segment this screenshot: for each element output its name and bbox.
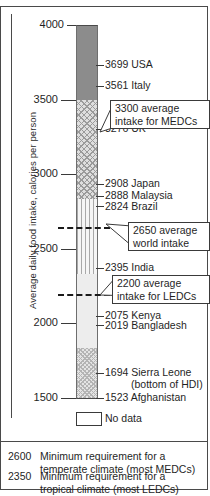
axis-tick-label-4000: 4000: [20, 18, 64, 30]
table-divider: [1, 441, 207, 442]
callout-world: 2650 average world intake: [128, 222, 210, 251]
callout-medc: 3300 average intake for MEDCs: [110, 100, 210, 129]
leader-tick-afghanistan: [96, 398, 104, 399]
bar-band-dotted: [76, 348, 98, 399]
bar-band-vertical-stripe: [76, 199, 98, 274]
leader-tick-india: [96, 268, 104, 269]
point-label-afghanistan: 1523 Afghanistan: [105, 391, 186, 403]
bar-band-plain: [76, 274, 98, 348]
leader-tick-bangladesh: [96, 325, 104, 326]
requirement-text-2600-line1: Minimum requirement for a: [40, 450, 165, 463]
requirement-text-2350-line1: Minimum requirement for a: [40, 470, 165, 483]
point-label-japan: 2908 Japan: [105, 177, 160, 189]
axis-tick-label-1500: 1500: [14, 391, 58, 403]
dashed-line-2200: [58, 294, 110, 296]
leader-tick-sierra-leone: [96, 373, 104, 374]
leader-tick-italy: [96, 86, 104, 87]
leader-tick-uk: [96, 129, 104, 130]
callout-ledc: 2200 average intake for LEDCs: [112, 275, 210, 304]
requirement-value-2350: 2350: [8, 470, 31, 482]
leader-tick-kenya: [96, 316, 104, 317]
dashed-line-2650: [58, 227, 110, 229]
leader-tick-japan: [96, 184, 104, 185]
axis-tick-label-3000: 3000: [14, 167, 58, 179]
callout-world-line1: 2650 average: [133, 224, 207, 237]
intake-bar: [76, 25, 98, 399]
axis-tick-label-2500: 2500: [14, 242, 58, 254]
point-label-bangladesh: 2019 Bangladesh: [105, 319, 187, 331]
callout-medc-line1: 3300 average: [115, 102, 207, 115]
legend-label-no-data: No data: [105, 412, 142, 424]
point-label-usa: 3699 USA: [105, 58, 153, 70]
point-label-brazil: 2824 Brazil: [105, 200, 158, 212]
point-label-sierra-leone: 1694 Sierra Leone: [105, 366, 191, 378]
leader-tick-brazil: [96, 206, 104, 207]
leader-tick-malaysia: [96, 196, 104, 197]
point-note-sierra-leone: (bottom of HDI): [131, 378, 203, 390]
leader-tick-usa: [96, 65, 104, 66]
legend-swatch-no-data: [76, 412, 102, 426]
point-label-india: 2395 India: [105, 261, 154, 273]
callout-world-line2: world intake: [133, 237, 207, 250]
requirement-text-2350-line2: tropical climate (most LEDCs): [40, 483, 179, 496]
axis-tick-label-3500: 3500: [14, 93, 58, 105]
callout-ledc-line2: intake for LEDCs: [117, 290, 207, 303]
point-label-italy: 3561 Italy: [105, 79, 151, 91]
bar-band-solid-top: [76, 25, 98, 100]
axis-tick-label-2000: 2000: [14, 316, 58, 328]
callout-medc-line2: intake for MEDCs: [115, 115, 207, 128]
axis-vertical-rule: [11, 14, 12, 418]
requirement-value-2600: 2600: [8, 450, 31, 462]
bar-band-crosshatch: [76, 100, 98, 199]
callout-ledc-line1: 2200 average: [117, 277, 207, 290]
y-axis-label: Average daily food intake, calories per …: [27, 86, 38, 336]
